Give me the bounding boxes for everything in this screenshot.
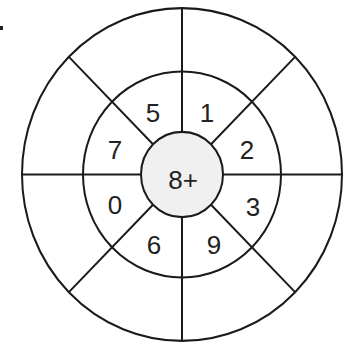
sector-label-2: 2 xyxy=(240,135,254,165)
sector-label-3: 3 xyxy=(246,192,260,222)
sector-label-1: 1 xyxy=(200,98,214,128)
sector-label-5: 5 xyxy=(146,98,160,128)
sector-label-0: 0 xyxy=(108,190,122,220)
sector-label-9: 9 xyxy=(207,230,221,260)
center-label: 8+ xyxy=(168,165,198,195)
spoke-nw xyxy=(69,57,153,144)
sector-label-7: 7 xyxy=(108,135,122,165)
number-wheel-diagram: 8+ 1 2 3 9 6 0 7 5 xyxy=(0,0,348,354)
spoke-ne xyxy=(211,57,295,144)
sector-label-6: 6 xyxy=(147,230,161,260)
